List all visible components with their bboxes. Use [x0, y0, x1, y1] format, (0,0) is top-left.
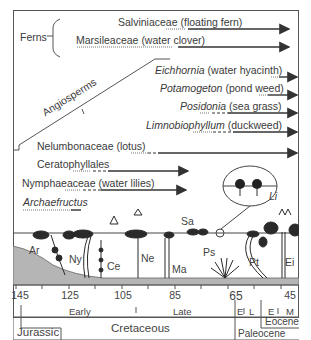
sub-paleocene-late: L: [249, 306, 254, 317]
tick-45: 45: [284, 289, 296, 301]
tick-105: 105: [114, 289, 132, 301]
period-eocene: Eocene: [265, 316, 299, 327]
plant-label-ny: Ny: [69, 253, 82, 265]
tick-85: 85: [169, 289, 181, 301]
plant-label-ne: Ne: [141, 252, 154, 264]
taxon-marsileaceae: Marsileaceae (water clover): [76, 34, 205, 46]
plant-label-ei: Ei: [285, 256, 294, 268]
tick-125: 125: [61, 289, 79, 301]
diagram-frame: Ferns Angiosperms Salviniaceae (floating…: [13, 10, 299, 340]
period-paleocene: Paleocene: [238, 328, 285, 339]
taxon-nymphaeaceae: Nymphaeaceae (water lilies): [22, 177, 154, 189]
tick-65: 65: [229, 289, 242, 303]
taxon-posidonia: Posidonia (sea grass): [180, 100, 282, 112]
taxon-limnobiophyllum: Limnobiophyllum (duckweed): [146, 119, 282, 131]
taxon-archaefructus: Archaefructus: [23, 196, 88, 208]
plant-label-pt: Pt: [249, 256, 259, 268]
plant-label-li: Li: [269, 190, 277, 202]
plant-label-ps: Ps: [203, 246, 215, 258]
taxon-potamogeton: Potamogeton (pond weed): [160, 82, 284, 94]
plant-label-sa: Sa: [181, 215, 194, 227]
sub-early: Early: [69, 306, 91, 317]
sub-paleocene-early: E: [237, 306, 243, 317]
period-cretaceous: Cretaceous: [111, 322, 170, 334]
period-jurassic: Jurassic: [17, 326, 59, 338]
tick-145: 145: [11, 289, 29, 301]
taxon-eichhornia: Eichhornia (water hyacinth): [155, 64, 282, 76]
taxon-salviniaceae: Salviniaceae (floating fern): [118, 16, 242, 28]
plant-label-ar: Ar: [29, 244, 40, 256]
plant-label-ce: Ce: [107, 260, 120, 272]
taxon-nelumbonaceae: Nelumbonaceae (lotus): [37, 140, 146, 152]
taxon-ceratophyllales: Ceratophyllales: [37, 158, 109, 170]
ferns-group-label: Ferns: [20, 31, 47, 43]
diagram-lines: [13, 10, 299, 340]
sub-late: Late: [173, 306, 192, 317]
plant-label-ma: Ma: [172, 263, 187, 275]
